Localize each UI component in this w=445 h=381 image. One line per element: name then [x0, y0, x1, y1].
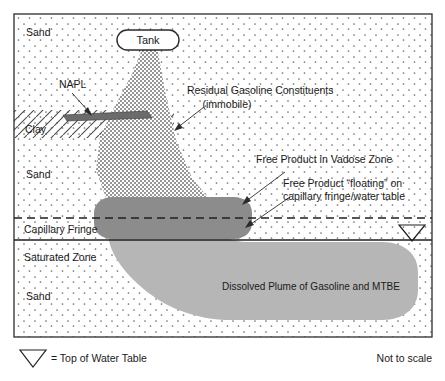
contaminant-plume-cross-section-diagram: Tank Sand Clay Sand Capillary Fringe Sat… — [0, 0, 445, 381]
residual-label-line1: Residual Gasoline Constituents — [187, 84, 334, 96]
free-product-vadose-label: Free Product in Vadose Zone — [256, 153, 393, 165]
napl-label: NAPL — [59, 78, 87, 90]
strata-label-capillary-fringe: Capillary Fringe — [24, 223, 98, 235]
free-product-floating-label-line2: capillary fringe/water table — [283, 190, 405, 202]
dissolved-plume-label: Dissolved Plume of Gasoline and MTBE — [222, 281, 400, 292]
legend-water-table-text: = Top of Water Table — [51, 352, 147, 364]
strata-label-sand-middle: Sand — [26, 168, 51, 180]
tank-symbol: Tank — [117, 30, 179, 50]
strata-label-clay: Clay — [25, 123, 47, 135]
strata-label-sand-lower: Sand — [26, 290, 51, 302]
tank-label: Tank — [136, 34, 160, 46]
legend-scale-note: Not to scale — [377, 352, 433, 364]
legend-water-table-triangle-icon — [20, 350, 46, 367]
diagram-canvas: Tank Sand Clay Sand Capillary Fringe Sat… — [0, 0, 445, 381]
residual-label-line2: (immobile) — [202, 98, 251, 110]
strata-label-sand-upper: Sand — [26, 26, 51, 38]
free-product-floating-label-line1: Free Product “floating” on — [283, 177, 402, 189]
strata-label-saturated-zone: Saturated Zone — [24, 251, 97, 263]
